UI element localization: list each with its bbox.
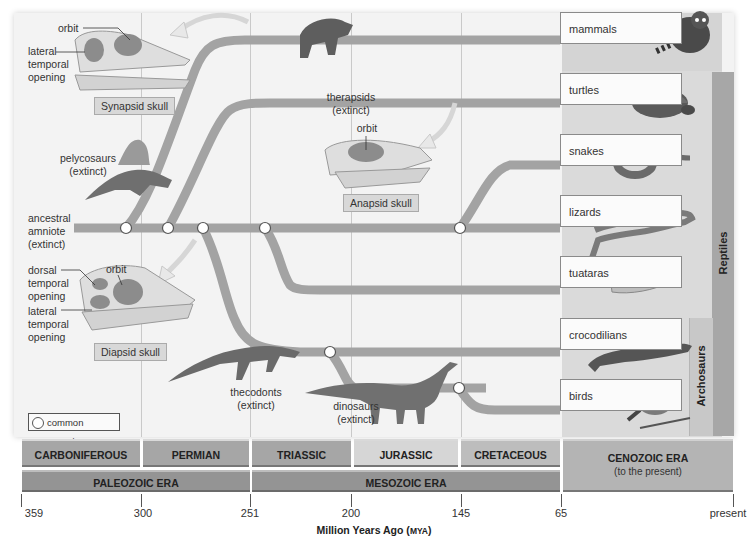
node-reptile bbox=[163, 223, 174, 234]
anapsid-skull-icon bbox=[325, 140, 432, 188]
cenozoic-sublabel: (to the present) bbox=[563, 466, 733, 477]
thecodonts-name: thecodonts bbox=[220, 386, 292, 399]
diapsid-skull-tag: Diapsid skull bbox=[94, 343, 167, 361]
synapsid-lateral-line3: opening bbox=[28, 71, 78, 84]
tick-label-145: 145 bbox=[452, 507, 470, 519]
therapsids-name: therapsids bbox=[315, 91, 387, 104]
axis-title-text: Million Years Ago bbox=[317, 524, 404, 536]
node-amniote bbox=[121, 223, 132, 234]
taxon-box-lizards: lizards bbox=[560, 195, 682, 227]
synapsid-lateral-label: lateral temporal opening bbox=[28, 45, 78, 84]
tick-label-300: 300 bbox=[134, 507, 152, 519]
anapsid-orbit-label: orbit bbox=[352, 122, 382, 135]
tick-label-200: 200 bbox=[342, 507, 360, 519]
synapsid-skull-icon bbox=[75, 31, 190, 90]
pelycosaurs-extinct: (extinct) bbox=[52, 165, 124, 178]
taxon-box-turtles: turtles bbox=[560, 73, 682, 105]
pelycosaurs-name: pelycosaurs bbox=[52, 152, 124, 165]
tick-300 bbox=[141, 494, 142, 507]
diapsid-skull-icon bbox=[80, 266, 195, 330]
synapsid-lateral-line1: lateral bbox=[28, 45, 78, 58]
anapsid-arrow bbox=[428, 103, 455, 142]
period-triassic: TRIASSIC bbox=[252, 439, 351, 467]
therapsids-extinct: (extinct) bbox=[315, 104, 387, 117]
dinosaurs-name: dinosaurs bbox=[320, 400, 392, 413]
axis-unit: MYA bbox=[410, 526, 428, 536]
node-squamate bbox=[455, 223, 466, 234]
node-dinosaur-bird bbox=[454, 383, 465, 394]
dinosaurs-label: dinosaurs (extinct) bbox=[320, 400, 392, 426]
synapsid-arrow bbox=[180, 15, 248, 30]
tick-359 bbox=[21, 494, 22, 507]
tick-200 bbox=[351, 494, 352, 507]
synapsid-orbit-label: orbit bbox=[58, 22, 78, 35]
tick-label-359: 359 bbox=[25, 507, 43, 519]
dinosaur-branch bbox=[330, 352, 486, 388]
diapsid-arrow bbox=[165, 240, 195, 275]
tick-label-65: 65 bbox=[555, 507, 567, 519]
anapsid-skull-tag: Anapsid skull bbox=[343, 194, 419, 212]
tick-present bbox=[733, 494, 734, 507]
era-cenozoic: CENOZOIC ERA (to the present) bbox=[563, 439, 733, 492]
diapsid-lateral-line1: lateral bbox=[28, 305, 78, 318]
pelycosaurs-label: pelycosaurs (extinct) bbox=[52, 152, 124, 178]
legend: common ancestor bbox=[28, 413, 120, 431]
snake-branch bbox=[460, 165, 560, 228]
diapsid-lateral-line2: temporal bbox=[28, 318, 78, 331]
taxon-box-birds: birds bbox=[560, 379, 682, 411]
node-archosaur bbox=[325, 347, 336, 358]
period-permian: PERMIAN bbox=[143, 439, 249, 467]
ancestral-line1: ancestral bbox=[28, 212, 88, 225]
therapsids-label: therapsids (extinct) bbox=[315, 91, 387, 117]
diapsid-dorsal-label: dorsal temporal opening bbox=[28, 264, 78, 303]
taxon-box-tuataras: tuataras bbox=[560, 256, 682, 288]
diapsid-lateral-line3: opening bbox=[28, 331, 78, 344]
diapsid-dorsal-line1: dorsal bbox=[28, 264, 78, 277]
tick-145 bbox=[461, 494, 462, 507]
ancestral-line2: amniote bbox=[28, 225, 88, 238]
common-ancestor-icon bbox=[32, 417, 44, 429]
era-paleozoic: PALEOZOIC ERA bbox=[22, 470, 250, 492]
period-jurassic: JURASSIC bbox=[354, 439, 458, 467]
tick-251 bbox=[250, 494, 251, 507]
dinosaurs-extinct: (extinct) bbox=[320, 413, 392, 426]
diapsid-orbit-label: orbit bbox=[106, 263, 126, 276]
era-mesozoic: MESOZOIC ERA bbox=[252, 470, 560, 492]
taxon-box-snakes: snakes bbox=[560, 134, 682, 166]
thecodonts-label: thecodonts (extinct) bbox=[220, 386, 292, 412]
tick-label-present: present bbox=[710, 507, 747, 519]
taxon-box-mammals: mammals bbox=[560, 12, 682, 44]
tick-65 bbox=[561, 494, 562, 507]
tuatara-branch bbox=[265, 228, 560, 290]
thecodonts-extinct: (extinct) bbox=[220, 399, 292, 412]
axis-title: Million Years Ago (MYA) bbox=[0, 524, 748, 536]
node-lepidosaur bbox=[260, 223, 271, 234]
ancestral-line3: (extinct) bbox=[28, 238, 88, 251]
diapsid-dorsal-line2: temporal bbox=[28, 277, 78, 290]
taxon-box-crocodilians: crocodilians bbox=[560, 318, 682, 350]
diapsid-dorsal-line3: opening bbox=[28, 290, 78, 303]
node-diapsid bbox=[198, 223, 209, 234]
synapsid-lateral-line2: temporal bbox=[28, 58, 78, 71]
cenozoic-label: CENOZOIC ERA bbox=[563, 452, 733, 464]
period-carboniferous: CARBONIFEROUS bbox=[22, 439, 140, 467]
tick-label-251: 251 bbox=[241, 507, 259, 519]
thecodont-icon bbox=[168, 346, 300, 382]
synapsid-skull-tag: Synapsid skull bbox=[94, 97, 175, 115]
ancestral-amniote-label: ancestral amniote (extinct) bbox=[28, 212, 88, 251]
period-cretaceous: CRETACEOUS bbox=[461, 439, 560, 467]
diapsid-lateral-label: lateral temporal opening bbox=[28, 305, 78, 344]
